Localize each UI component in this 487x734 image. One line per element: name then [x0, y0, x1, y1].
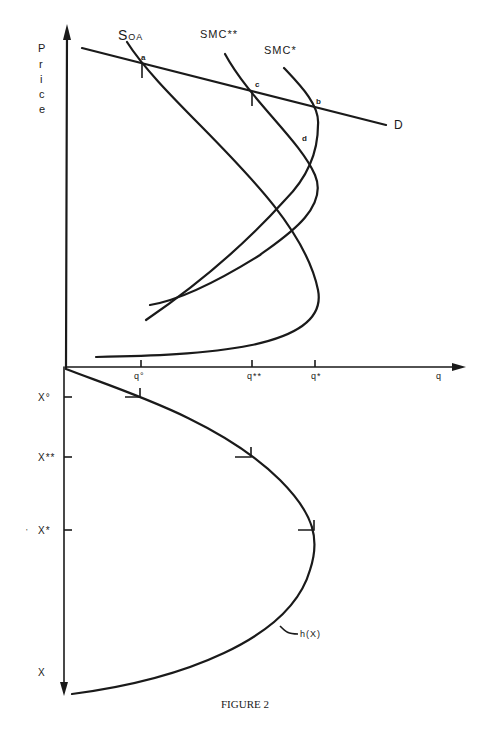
figure: P r i c e D SOA SMC** SMC* a c b d q° q*… — [0, 0, 487, 734]
smc-double-star-curve — [150, 54, 318, 305]
price-letter: e — [39, 103, 46, 115]
price-letter: r — [39, 58, 44, 70]
q1-label: q* — [311, 371, 322, 381]
x1-label: X* — [38, 525, 51, 536]
price-letter: P — [38, 42, 46, 54]
point-b-label: b — [316, 97, 322, 106]
stray-mark: ' — [26, 527, 29, 536]
q-axis-arrow — [452, 363, 466, 371]
price-axis-label: P r i c e — [38, 42, 46, 115]
price-letter: c — [39, 88, 46, 100]
point-d-label: d — [302, 134, 308, 143]
x-axis-label: X — [38, 667, 46, 678]
q0-label: q° — [134, 371, 145, 381]
x-axis-arrow — [60, 682, 68, 696]
x2-label: X** — [38, 452, 55, 463]
q2-label: q** — [247, 371, 262, 381]
smc-star-curve — [146, 68, 318, 320]
h-label: h(X) — [300, 629, 321, 639]
smc-double-star-label: SMC** — [200, 28, 238, 40]
figure-caption: FIGURE 2 — [221, 698, 269, 710]
point-a-label: a — [141, 53, 146, 62]
q-axis-label: q — [436, 371, 442, 381]
price-axis-arrow — [63, 24, 71, 40]
smc-star-label: SMC* — [264, 44, 297, 56]
x0-label: X° — [38, 392, 51, 403]
h-curve — [66, 369, 315, 694]
demand-label: D — [394, 118, 404, 132]
soa-label: SOA — [118, 27, 143, 43]
price-axis — [66, 30, 67, 368]
demand-line — [82, 48, 386, 125]
price-letter: i — [40, 73, 43, 85]
h-leader — [280, 626, 298, 634]
point-c-label: c — [255, 80, 260, 89]
